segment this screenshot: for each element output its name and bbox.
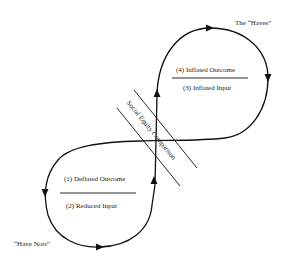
arrow-down-icon <box>42 189 49 197</box>
haves-label: The “Haves” <box>235 19 271 27</box>
barrier-line-upper <box>134 90 197 168</box>
have-nots-label: “Have Nots” <box>14 240 50 248</box>
arrow-right-icon <box>96 244 104 251</box>
deflated-outcome-label: (1) Deflated Outcome <box>64 175 125 183</box>
arrow-up-icon <box>151 176 158 184</box>
arrow-up-icon <box>154 89 161 97</box>
inflated-input-label: (3) Inflated Input <box>183 84 231 92</box>
inflated-outcome-label: (4) Inflated Outcome <box>176 66 235 74</box>
arrow-down-icon <box>265 74 272 82</box>
arrow-right-icon <box>206 25 214 32</box>
reduced-input-label: (2) Reduced Input <box>66 202 117 210</box>
figure-eight-diagram <box>0 0 289 263</box>
